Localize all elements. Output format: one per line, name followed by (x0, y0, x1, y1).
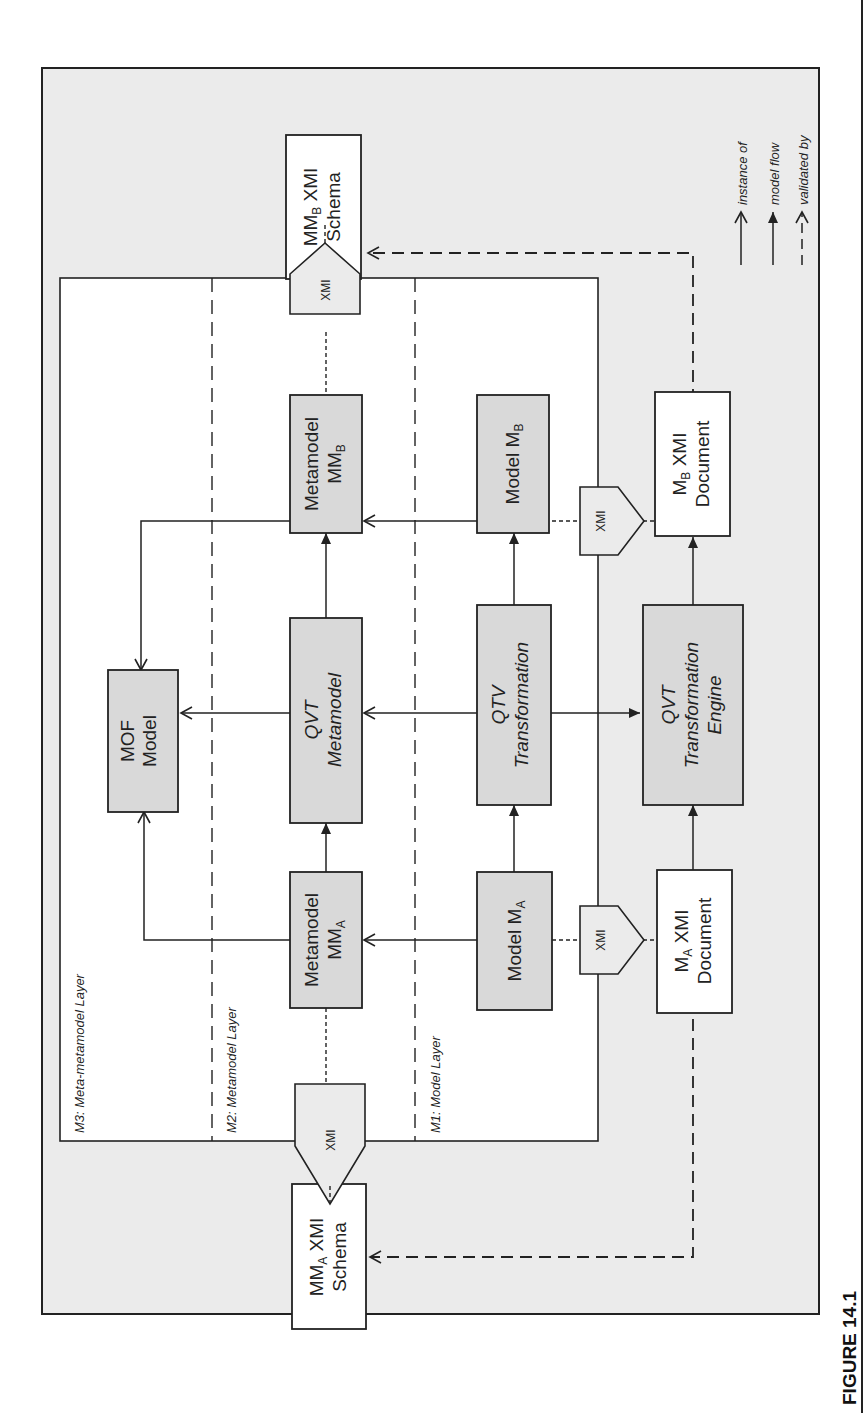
box-mma-xmi-schema: MMA XMI Schema (292, 1184, 366, 1329)
svg-text:Document: Document (694, 897, 715, 984)
svg-text:XMI: XMI (319, 279, 333, 300)
box-model-ma: Model MA (477, 872, 552, 1010)
box-mb-xmi-document: MB XMI Document (655, 392, 730, 536)
layer-label-m1: M1: Model Layer (428, 1036, 443, 1133)
svg-text:MMA XMI: MMA XMI (306, 1218, 330, 1297)
svg-text:Schema: Schema (323, 172, 344, 242)
svg-text:Model MA: Model MA (504, 901, 528, 982)
svg-text:QVT: QVT (301, 699, 322, 739)
svg-text:MOF: MOF (117, 720, 138, 762)
svg-text:Metamodel: Metamodel (301, 893, 322, 987)
svg-text:Transformation: Transformation (511, 642, 532, 768)
svg-text:MA XMI: MA XMI (671, 910, 695, 973)
svg-text:Model: Model (139, 715, 160, 767)
legend-validated-by: validated by (796, 134, 811, 205)
layer-label-m3: M3: Meta-metamodel Layer (72, 973, 87, 1133)
svg-text:Metamodel: Metamodel (301, 417, 322, 511)
svg-text:Engine: Engine (704, 675, 725, 734)
diagram-canvas: M3: Meta-metamodel Layer M2: Metamodel L… (0, 0, 865, 1413)
box-metamodel-mmb: Metamodel MMB (290, 395, 362, 533)
svg-text:Document: Document (692, 420, 713, 507)
box-qvt-transformation-engine: QVT Transformation Engine (643, 605, 743, 805)
box-ma-xmi-document: MA XMI Document (657, 870, 732, 1013)
svg-text:QVT: QVT (658, 684, 679, 724)
layer-label-m2: M2: Metamodel Layer (224, 1007, 239, 1133)
box-model-mb: Model MB (477, 395, 549, 533)
box-mof-model: MOF Model (108, 670, 178, 812)
svg-text:Model MB: Model MB (502, 424, 526, 505)
svg-text:Transformation: Transformation (681, 642, 702, 768)
svg-text:MMB XMI: MMB XMI (300, 168, 324, 247)
svg-text:XMI: XMI (594, 929, 608, 950)
svg-text:MB XMI: MB XMI (669, 433, 693, 496)
legend-model-flow: model flow (767, 141, 782, 205)
box-metamodel-mma: Metamodel MMA (290, 872, 362, 1008)
box-qtv-transformation: QTV Transformation (477, 605, 551, 805)
svg-text:QTV: QTV (488, 683, 509, 724)
svg-text:Schema: Schema (329, 1222, 350, 1292)
svg-text:XMI: XMI (594, 510, 608, 531)
legend-instance-of: instance of (735, 141, 750, 205)
svg-text:XMI: XMI (324, 1129, 338, 1150)
box-qvt-metamodel: QVT Metamodel (290, 618, 362, 823)
figure-caption: FIGURE 14.1 (839, 1291, 860, 1405)
svg-text:Metamodel: Metamodel (324, 672, 345, 767)
